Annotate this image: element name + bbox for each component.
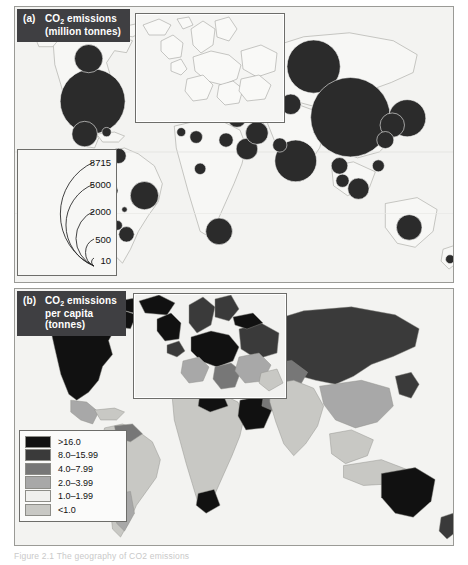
emission-bubble [372,160,384,172]
legend-label-8-16: 8.0–15.99 [58,450,98,460]
emission-bubble [194,163,205,174]
emission-bubble [246,122,269,145]
panel-b-title-co: CO [45,295,60,306]
emission-bubble [177,128,186,137]
legend-row-over16: >16.0 [25,435,122,449]
per-capita-class-legend: >16.0 8.0–15.99 4.0–7.99 2.0–3.99 1.0–1.… [19,430,127,522]
legend-swatch-under1 [25,504,51,516]
figure-caption: Figure 2.1 The geography of CO2 emission… [14,551,454,561]
bubble-size-legend: 8715 5000 2000 500 10 [17,149,117,276]
emission-bubble [72,121,98,147]
emission-bubble [446,255,453,264]
bubble-legend-label-2000: 2000 [90,206,111,217]
panel-b-title-plate: (b)CO2 emissionsper capita(tonnes) [17,291,126,336]
panel-a-id: (a) [23,13,45,25]
emission-bubble [75,45,103,73]
emission-bubble [130,182,158,210]
legend-row-2-4: 2.0–3.99 [25,476,122,490]
panel-a-emissions-map: 8715 5000 2000 500 10 (a)CO2 emissions(m… [14,6,454,283]
panel-a-title-line2: (million tonnes) [45,26,121,37]
bubble-legend-label-5000: 5000 [90,179,111,190]
legend-swatch-8-16 [25,449,51,461]
emission-bubble [190,131,203,144]
panel-a-title-subscript: 2 [60,18,64,25]
legend-swatch-over16 [25,436,51,448]
panel-b-title-rest: emissions [64,295,117,306]
legend-label-4-8: 4.0–7.99 [58,464,93,474]
panel-a-title-rest: emissions [64,13,117,24]
legend-swatch-4-8 [25,463,51,475]
panel-a-title-plate: (a)CO2 emissions(million tonnes) [17,9,130,42]
panel-b-title-line2: per capita [45,308,93,319]
europe-inset-frame-a [135,13,285,123]
emission-bubble [348,178,369,199]
bubble-legend-label-10: 10 [100,255,111,266]
emission-bubble [219,133,233,147]
figure-co2-emissions: 8715 5000 2000 500 10 (a)CO2 emissions(m… [0,0,468,565]
europe-inset-map-b [135,295,285,397]
panel-b-title-line3: (tonnes) [45,319,85,330]
legend-row-1-2: 1.0–1.99 [25,489,122,503]
emission-bubble [396,215,422,241]
emission-bubble [331,158,348,175]
legend-label-1-2: 1.0–1.99 [58,491,93,501]
bubble-legend-label-500: 500 [95,234,111,245]
bubble-legend-label-8715: 8715 [90,157,111,168]
legend-swatch-2-4 [25,476,51,488]
legend-label-under1: <1.0 [58,505,76,515]
legend-row-8-16: 8.0–15.99 [25,449,122,463]
panel-b-per-capita-map: >16.0 8.0–15.99 4.0–7.99 2.0–3.99 1.0–1.… [14,288,454,546]
panel-a-title-co: CO [45,13,60,24]
legend-row-under1: <1.0 [25,503,122,517]
emission-bubble [273,138,287,152]
europe-inset-frame-b [133,293,287,399]
panel-b-id: (b) [23,295,45,307]
legend-label-over16: >16.0 [58,437,81,447]
legend-swatch-1-2 [25,490,51,502]
legend-label-2-4: 2.0–3.99 [58,478,93,488]
panel-b-title-subscript: 2 [60,300,64,307]
emission-bubble [377,132,394,149]
emission-bubble [206,218,233,245]
emission-bubble [336,174,349,187]
emission-bubble [119,227,134,242]
europe-inset-map-a [137,15,283,121]
emission-bubble [122,207,127,212]
emission-bubble [102,127,111,136]
legend-row-4-8: 4.0–7.99 [25,462,122,476]
